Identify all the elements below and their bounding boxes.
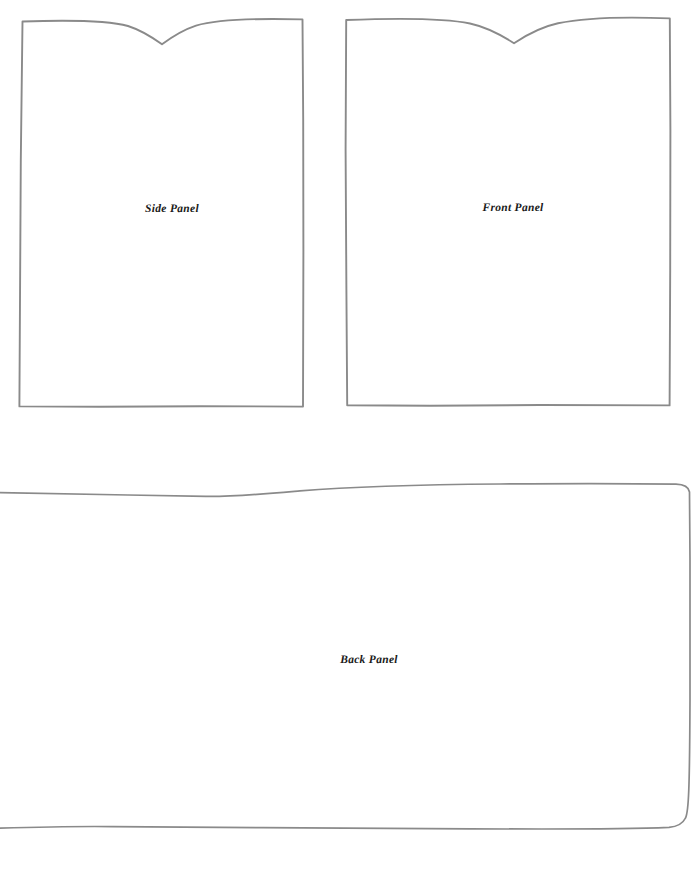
pattern-sheet: Side Panel Front Panel Back Panel	[0, 0, 691, 889]
back-panel-label: Back Panel	[340, 654, 398, 666]
side-panel-label: Side Panel	[145, 203, 199, 215]
front-panel-label: Front Panel	[482, 202, 543, 214]
pattern-drawing	[0, 0, 691, 889]
